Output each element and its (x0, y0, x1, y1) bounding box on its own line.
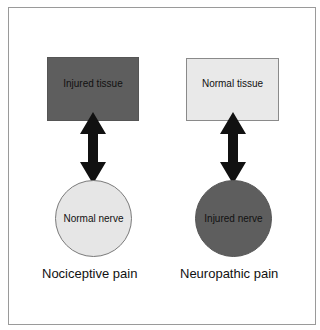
normal-nerve-circle: Normal nerve (55, 180, 132, 257)
double-arrow-icon (80, 112, 106, 184)
injured-nerve-circle: Injured nerve (195, 180, 272, 257)
injured-tissue-label: Injured tissue (63, 78, 122, 89)
double-arrow-icon (220, 112, 246, 184)
normal-tissue-label: Normal tissue (202, 78, 263, 89)
normal-nerve-label: Normal nerve (63, 213, 123, 224)
nociceptive-pain-caption: Nociceptive pain (42, 266, 137, 281)
neuropathic-pain-caption: Neuropathic pain (180, 266, 278, 281)
injured-nerve-label: Injured nerve (204, 213, 262, 224)
